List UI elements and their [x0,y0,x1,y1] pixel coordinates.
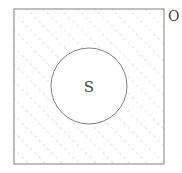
universe-label: O [168,8,179,24]
set-s-label: S [84,78,94,96]
venn-diagram: S O [0,0,182,173]
